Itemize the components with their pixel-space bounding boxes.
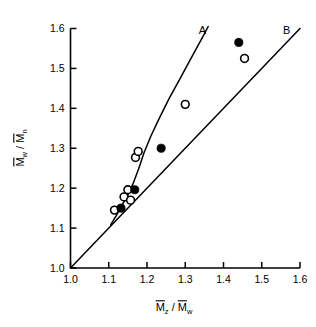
- x-tick-label-1.6: 1.6: [293, 273, 308, 285]
- marker-open-3: [127, 196, 135, 204]
- y-tick-label-1.1: 1.1: [50, 222, 65, 234]
- y-tick-label-1.4: 1.4: [50, 102, 65, 114]
- x-axis-ticks: [71, 262, 301, 268]
- curve-label-A: A: [199, 24, 207, 36]
- y-axis-title: Mw / Mn: [14, 129, 29, 166]
- chart-figure: 1.01.11.21.31.41.51.6 1.01.11.21.31.41.5…: [0, 0, 316, 327]
- y-axis-tick-labels: 1.01.11.21.31.41.51.6: [50, 22, 65, 273]
- x-tick-label-1.2: 1.2: [140, 273, 155, 285]
- x-tick-label-1.1: 1.1: [101, 273, 116, 285]
- y-tick-label-1.5: 1.5: [50, 62, 65, 74]
- marker-open-6: [181, 100, 189, 108]
- marker-open-5: [134, 148, 142, 156]
- x-tick-label-1.4: 1.4: [216, 273, 231, 285]
- x-tick-label-1.0: 1.0: [63, 273, 78, 285]
- x-tick-label-1.3: 1.3: [178, 273, 193, 285]
- curve-label-B: B: [283, 24, 290, 36]
- scatter-plot-svg: 1.01.11.21.31.41.51.6 1.01.11.21.31.41.5…: [0, 0, 316, 327]
- data-markers: [111, 38, 249, 214]
- x-axis-title: Mz / Mw: [156, 301, 193, 316]
- marker-open-7: [241, 55, 249, 63]
- marker-filled-0: [117, 204, 125, 212]
- svg-text:Mz / Mw: Mz / Mw: [156, 301, 193, 316]
- curve-labels: AB: [199, 24, 290, 37]
- y-axis-ticks: [71, 29, 77, 269]
- marker-filled-2: [157, 144, 165, 152]
- y-tick-label-1.0: 1.0: [50, 262, 65, 274]
- x-axis-tick-labels: 1.01.11.21.31.41.51.6: [63, 273, 307, 285]
- marker-filled-3: [235, 38, 243, 46]
- y-tick-label-1.2: 1.2: [50, 182, 65, 194]
- x-tick-label-1.5: 1.5: [254, 273, 269, 285]
- curve-B: [71, 29, 301, 269]
- data-curves: [71, 27, 301, 269]
- y-tick-label-1.3: 1.3: [50, 142, 65, 154]
- y-tick-label-1.6: 1.6: [50, 22, 65, 34]
- svg-text:Mw / Mn: Mw / Mn: [14, 129, 29, 166]
- marker-filled-1: [131, 186, 139, 194]
